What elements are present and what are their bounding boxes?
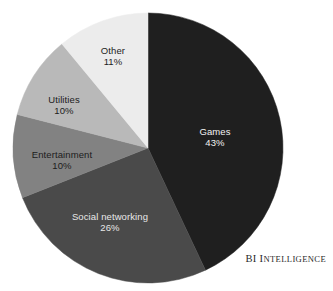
pie-label-utilities-name: Utilities: [48, 94, 80, 105]
pie-label-other-name: Other: [101, 45, 125, 56]
pie-label-games: Games 43%: [199, 126, 230, 148]
pie-label-social-networking: Social networking 26%: [72, 211, 148, 233]
pie-label-entertainment-name: Entertainment: [32, 149, 92, 160]
pie-label-entertainment-value: 10%: [32, 160, 92, 171]
pie-label-utilities-value: 10%: [48, 105, 80, 116]
pie-chart-svg: [0, 0, 333, 291]
pie-label-games-value: 43%: [199, 137, 230, 148]
pie-label-social-networking-name: Social networking: [72, 211, 148, 222]
pie-label-social-networking-value: 26%: [72, 222, 148, 233]
pie-chart: Games 43% Social networking 26% Entertai…: [0, 0, 333, 291]
pie-label-entertainment: Entertainment 10%: [32, 149, 92, 171]
attribution-rest: NTELLIGENCE: [263, 254, 326, 264]
pie-label-games-name: Games: [199, 126, 230, 137]
pie-label-other-value: 11%: [101, 56, 125, 67]
pie-label-utilities: Utilities 10%: [48, 94, 80, 116]
pie-label-other: Other 11%: [101, 45, 125, 67]
attribution-watermark: BI INTELLIGENCE: [245, 253, 326, 264]
attribution-prefix: BI: [245, 253, 259, 264]
